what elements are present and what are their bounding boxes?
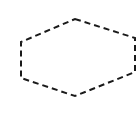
diagram-canvas (0, 0, 139, 127)
dashed-hexagon-shape (21, 19, 135, 96)
